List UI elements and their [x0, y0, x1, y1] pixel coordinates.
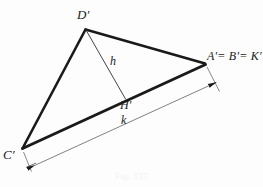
figure-drawing-canvas — [0, 0, 263, 187]
triangle-outline — [23, 30, 206, 149]
vertex-label-d-prime: D′ — [77, 8, 90, 21]
figure-caption: Fig. 137 — [0, 171, 263, 181]
witness-line-left — [24, 152, 32, 172]
vertex-label-a-b-k-prime: A′= B′= K′ — [207, 50, 262, 62]
segment-D-to-A — [86, 30, 206, 64]
segment-C-to-A-baseline — [23, 65, 206, 149]
vertex-label-c-prime: C′ — [3, 148, 15, 161]
segment-label-k: k — [121, 114, 126, 126]
vertex-label-h-prime: H′ — [120, 99, 132, 111]
witness-line-right — [207, 67, 220, 92]
segment-label-h: h — [110, 55, 116, 67]
segment-D-to-C — [23, 30, 86, 149]
geometry-figure: D′ C′ A′= B′= K′ H′ h k Fig. 137 — [0, 0, 263, 187]
